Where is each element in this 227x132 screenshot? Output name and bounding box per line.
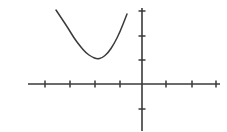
coordinate-plane-svg: [0, 0, 227, 132]
axes-group: [28, 8, 220, 131]
graph-figure: [0, 0, 227, 132]
parabola-curve: [56, 10, 127, 59]
